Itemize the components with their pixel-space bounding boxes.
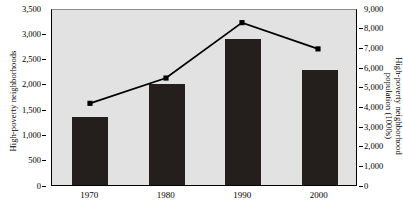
axis-tick-label: 7,000 (364, 44, 383, 53)
axis-tick-mark (42, 160, 46, 161)
line-marker-1990 (239, 20, 244, 25)
axis-tick-mark (359, 87, 363, 88)
axis-tick-mark (359, 146, 363, 147)
x-axis-label-1970: 1970 (80, 190, 98, 200)
axis-tick-mark (42, 84, 46, 85)
axis-tick-label: 2,500 (22, 55, 41, 64)
axis-tick-label: 6,000 (364, 64, 383, 73)
axis-tick-label: 2,000 (22, 80, 41, 89)
axis-tick-mark (359, 166, 363, 167)
axis-tick-label: 4,000 (364, 103, 383, 112)
axis-tick-mark (42, 110, 46, 111)
axis-tick-label: 2,000 (364, 142, 383, 151)
axis-tick-mark (359, 186, 363, 187)
axis-tick-mark (42, 59, 46, 60)
plot-area (51, 9, 357, 186)
axis-tick-mark (359, 48, 363, 49)
axis-tick-label: 1,000 (22, 131, 41, 140)
line-marker-1970 (87, 101, 92, 106)
axis-tick-mark (359, 68, 363, 69)
axis-tick-mark (42, 135, 46, 136)
axis-tick-label: 500 (28, 156, 41, 165)
axis-tick-label: 3,000 (364, 123, 383, 132)
axis-tick-label: 3,500 (22, 5, 41, 14)
line-series (52, 10, 356, 185)
axis-tick-label: 5,000 (364, 83, 383, 92)
axis-tick-label: 0 (364, 182, 368, 191)
chart-figure: High-poverty neighborhoods High-poverty … (0, 0, 403, 210)
x-axis-label-2000: 2000 (310, 190, 328, 200)
x-axis-label-1990: 1990 (233, 190, 251, 200)
axis-tick-label: 9,000 (364, 5, 383, 14)
right-axis-ticks: 01,0002,0003,0004,0005,0006,0007,0008,00… (358, 0, 392, 210)
axis-tick-mark (42, 34, 46, 35)
axis-tick-mark (42, 186, 46, 187)
axis-tick-label: 1,500 (22, 106, 41, 115)
x-axis-label-1980: 1980 (157, 190, 175, 200)
axis-tick-label: 3,000 (22, 30, 41, 39)
axis-tick-mark (359, 107, 363, 108)
axis-tick-label: 8,000 (364, 24, 383, 33)
axis-tick-label: 0 (37, 182, 41, 191)
line-marker-1980 (163, 75, 168, 80)
left-axis-ticks: 05001,0001,5002,0002,5003,0003,500 (12, 0, 46, 210)
right-axis-title-line1: High-poverty neighborhood (394, 57, 403, 155)
axis-tick-mark (359, 127, 363, 128)
line-path (90, 23, 318, 104)
line-marker-2000 (315, 46, 320, 51)
axis-tick-label: 1,000 (364, 162, 383, 171)
x-axis-labels: 1970198019902000 (51, 190, 357, 206)
axis-tick-mark (359, 28, 363, 29)
